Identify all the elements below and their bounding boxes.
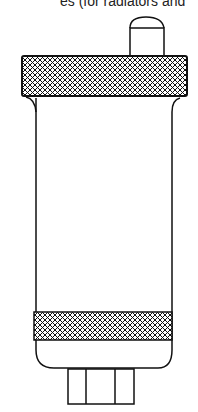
device-diagram xyxy=(0,0,198,412)
bottom-hatched-band xyxy=(34,312,172,340)
base-connector xyxy=(68,369,134,404)
top-cap xyxy=(130,17,164,56)
top-hatched-band xyxy=(22,56,187,96)
